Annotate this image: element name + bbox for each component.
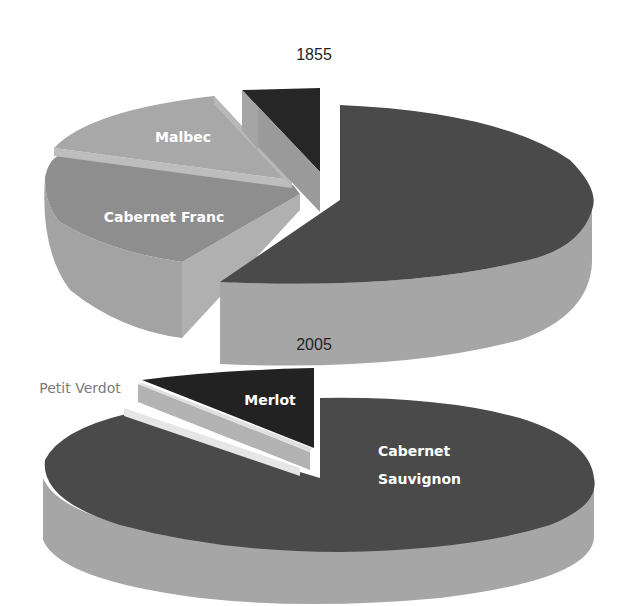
chart-title-1855: 1855	[296, 46, 332, 63]
label-cabernet-sauvignon-line1: Cabernet	[378, 443, 451, 459]
label-merlot: Merlot	[244, 392, 296, 408]
pie-chart-2005: 2005 Petit Verdot Merlot Cabernet Sauvig…	[39, 336, 594, 604]
wine-grape-charts: 1855 Malbec Cabernet F	[0, 0, 622, 606]
pie-chart-1855: 1855 Malbec Cabernet F	[44, 46, 593, 366]
label-malbec: Malbec	[155, 129, 211, 145]
chart-title-2005: 2005	[296, 336, 332, 353]
label-cabernet-sauvignon-line2: Sauvignon	[378, 471, 461, 487]
label-cabernet-franc: Cabernet Franc	[104, 209, 224, 225]
slice-cabernet-sauvignon-2005	[43, 398, 595, 604]
label-petit-verdot: Petit Verdot	[39, 380, 121, 396]
